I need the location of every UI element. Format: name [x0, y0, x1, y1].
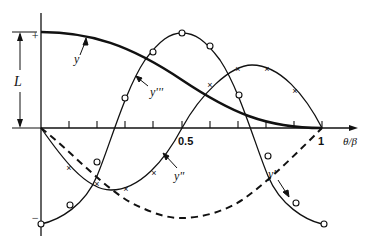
label-plus: +: [31, 29, 39, 43]
dimension-arrow-up-icon: [17, 32, 23, 41]
tick-label-1: 1: [318, 135, 324, 147]
label-dimension-L: L: [13, 74, 22, 89]
dimension-arrow-down-icon: [17, 119, 23, 128]
annotation-leaders: [80, 38, 289, 197]
cam-motion-diagram: × × × × × × × × L + − y y''': [0, 0, 376, 243]
svg-text:×: ×: [235, 64, 240, 74]
label-y-double-prime: y": [173, 169, 185, 183]
svg-text:×: ×: [123, 184, 128, 194]
axes: [12, 13, 358, 236]
x-axis-label: θ/β: [343, 135, 357, 147]
svg-text:×: ×: [292, 86, 297, 96]
label-y: y: [73, 52, 80, 66]
svg-text:×: ×: [66, 163, 71, 173]
x-axis-arrow-icon: [349, 125, 358, 131]
svg-text:×: ×: [264, 64, 269, 74]
svg-text:×: ×: [207, 80, 212, 90]
label-minus: −: [31, 211, 39, 225]
label-y-prime: y': [267, 167, 276, 181]
svg-text:×: ×: [151, 168, 156, 178]
label-y-triple-prime: y''': [149, 85, 163, 99]
tick-label-0-5: 0.5: [178, 135, 193, 147]
